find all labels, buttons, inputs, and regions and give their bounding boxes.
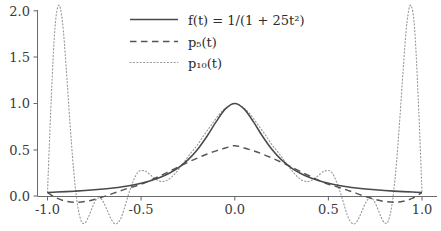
y-tick-label: 2.0 xyxy=(9,4,30,19)
x-tick-label: -1.0 xyxy=(35,202,60,217)
series-line-p5 xyxy=(48,146,423,203)
data-curves xyxy=(48,5,423,224)
y-tick-label: 1.5 xyxy=(9,50,30,65)
y-axis-ticks xyxy=(34,11,38,196)
plot-canvas: 2.0 1.5 1.0 0.5 0.0 -1.0 -0.5 0.0 0.5 1.… xyxy=(0,0,441,231)
series-line-p10 xyxy=(48,5,423,224)
chart-legend: f(t) = 1/(1 + 25t²) p₅(t) p₁₀(t) xyxy=(130,13,305,71)
runge-phenomenon-chart: 2.0 1.5 1.0 0.5 0.0 -1.0 -0.5 0.0 0.5 1.… xyxy=(0,0,441,231)
y-tick-label: 0.0 xyxy=(9,189,30,204)
x-tick-label: 0.0 xyxy=(224,202,245,217)
legend-label-p10: p₁₀(t) xyxy=(188,56,222,71)
legend-label-f: f(t) = 1/(1 + 25t²) xyxy=(188,13,305,28)
x-tick-label: -0.5 xyxy=(129,202,154,217)
y-axis-tick-labels: 2.0 1.5 1.0 0.5 0.0 xyxy=(9,4,30,204)
x-tick-label: 1.0 xyxy=(412,202,433,217)
x-tick-label: 0.5 xyxy=(318,202,339,217)
y-tick-label: 0.5 xyxy=(9,143,30,158)
legend-label-p5: p₅(t) xyxy=(188,35,217,50)
series-line-f xyxy=(48,103,423,192)
x-axis-tick-labels: -1.0 -0.5 0.0 0.5 1.0 xyxy=(35,202,432,217)
y-tick-label: 1.0 xyxy=(9,96,30,111)
